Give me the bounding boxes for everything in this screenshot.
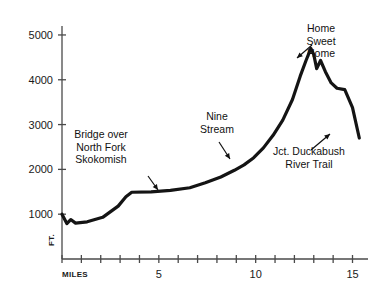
annotation-nine-stream: NineStream <box>200 110 234 159</box>
annotations-group: Bridge overNorth ForkSkokomishNineStream… <box>74 22 345 190</box>
elevation-profile-chart: 10002000300040005000 51015 FT. MILES Bri… <box>0 0 372 296</box>
y-tick-label: 2000 <box>29 163 53 175</box>
chart-canvas: 10002000300040005000 51015 FT. MILES Bri… <box>0 0 372 296</box>
annotation-jct-duckabush-river-trail: Jct. DuckabushRiver Trail <box>273 134 345 170</box>
y-tick-label: 5000 <box>29 29 53 41</box>
x-axis-tick-labels: 51015 <box>156 268 359 280</box>
annotation-arrowhead <box>225 153 230 159</box>
y-tick-label: 3000 <box>29 119 53 131</box>
y-tick-label: 1000 <box>29 208 53 220</box>
y-tick-label: 4000 <box>29 74 53 86</box>
annotation-label: HomeSweetHome <box>306 22 335 59</box>
annotation-label: NineStream <box>200 110 234 135</box>
y-axis-tick-labels: 10002000300040005000 <box>29 29 53 220</box>
annotation-arrowhead <box>153 184 158 190</box>
y-axis-unit-label: FT. <box>47 234 56 246</box>
annotation-label: Jct. DuckabushRiver Trail <box>273 145 345 170</box>
x-tick-label: 15 <box>346 268 358 280</box>
annotation-label: Bridge overNorth ForkSkokomish <box>74 128 128 165</box>
annotation-home-sweet-home: HomeSweetHome <box>297 22 336 59</box>
x-tick-label: 10 <box>250 268 262 280</box>
annotation-bridge-over-north-fork-skokomish: Bridge overNorth ForkSkokomish <box>74 128 158 190</box>
x-tick-label: 5 <box>156 268 162 280</box>
x-axis-unit-label: MILES <box>62 270 88 279</box>
